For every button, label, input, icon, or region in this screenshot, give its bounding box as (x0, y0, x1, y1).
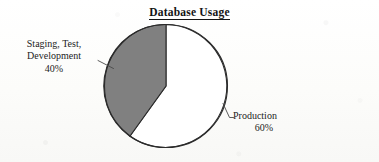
staging-label-line-2: Development (8, 50, 100, 62)
staging-label-percent: 40% (8, 63, 100, 75)
production-label-percent: 60% (233, 122, 295, 134)
slice-label-production: Production 60% (233, 110, 319, 135)
chart-canvas: Database Usage Staging, Test, Developmen… (0, 0, 379, 162)
production-label-name: Production (233, 110, 319, 122)
slice-label-staging-test-development: Staging, Test, Development 40% (8, 38, 100, 75)
pie-chart-graphic (0, 0, 379, 162)
staging-label-line-1: Staging, Test, (8, 38, 100, 50)
